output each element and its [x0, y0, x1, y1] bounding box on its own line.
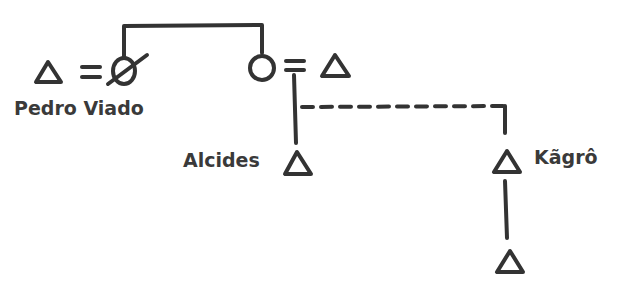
descent-line-alcides: [294, 75, 296, 143]
female-circle: [250, 56, 274, 80]
male-triangle-alcides: [285, 152, 311, 174]
male-triangle-husband: [322, 55, 349, 76]
label-kagro: Kãgrô: [534, 148, 598, 167]
label-alcides: Alcides: [183, 151, 260, 170]
male-triangle-kagro: [494, 151, 520, 172]
sibling-bracket: [124, 25, 262, 57]
kinship-diagram: [0, 0, 621, 292]
dashed-descent-line-kagro: [302, 106, 505, 107]
male-triangle-kagro-child: [497, 251, 523, 272]
label-pedro-viado: Pedro Viado: [14, 99, 144, 118]
male-triangle-pedro-viado: [36, 62, 61, 82]
descent-line-kagro-child: [505, 181, 507, 238]
